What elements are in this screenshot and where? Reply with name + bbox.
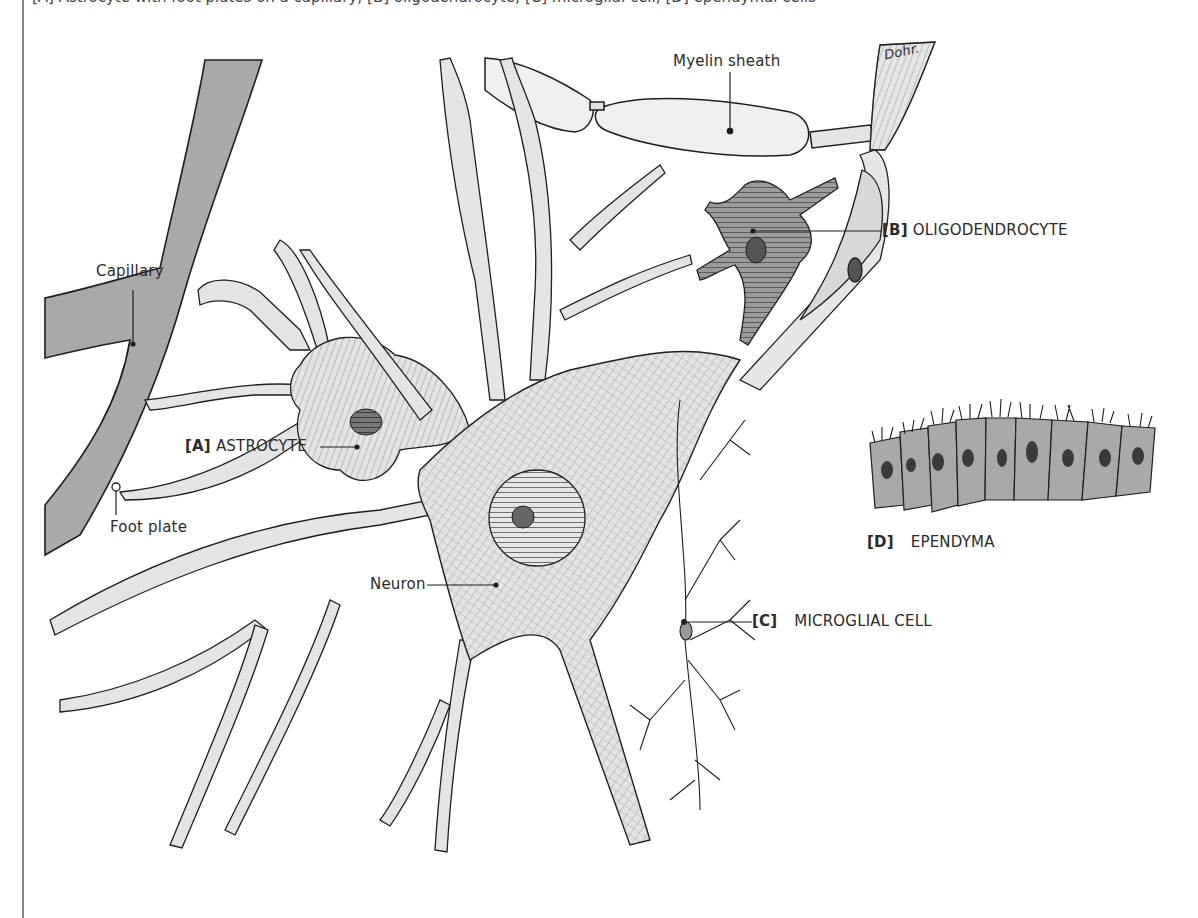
- label-ependyma: [D] EPENDYMA: [867, 533, 995, 551]
- label-microglial-cell: [C] MICROGLIAL CELL: [752, 612, 932, 630]
- ependyma-text: EPENDYMA: [911, 533, 995, 551]
- label-neuron: Neuron: [370, 575, 426, 593]
- label-myelin-sheath: Myelin sheath: [673, 52, 780, 70]
- ependyma-tag: [D]: [867, 533, 894, 551]
- foot-plate-marker: [112, 483, 120, 491]
- ependyma: [870, 399, 1155, 512]
- label-astrocyte: [A] ASTROCYTE: [185, 437, 307, 455]
- glial-cells-illustration: [0, 0, 1198, 918]
- label-oligodendrocyte: [B] OLIGODENDROCYTE: [882, 221, 1068, 239]
- label-capillary: Capillary: [96, 262, 164, 280]
- myelin-sheath: [485, 58, 880, 156]
- astrocyte-text: ASTROCYTE: [216, 437, 307, 455]
- label-foot-plate: Foot plate: [110, 518, 187, 536]
- microglial-text: MICROGLIAL CELL: [794, 612, 932, 630]
- oligodendrocyte-text: OLIGODENDROCYTE: [913, 221, 1068, 239]
- oligodendrocyte-tag: [B]: [882, 221, 908, 239]
- microglial-tag: [C]: [752, 612, 777, 630]
- astrocyte-tag: [A]: [185, 437, 211, 455]
